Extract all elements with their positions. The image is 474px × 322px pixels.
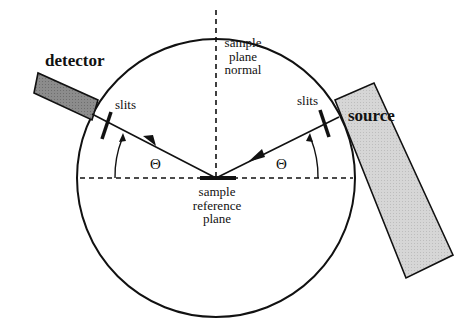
source-label: source [348,107,395,125]
sample-plane-normal-label: sample plane normal [220,36,266,77]
detector-box [34,73,98,120]
diffraction-diagram: detector source slits slits sample plane… [0,0,474,322]
incident-arrowhead-icon [248,149,265,162]
theta-arc-right-arrowhead-icon [306,133,313,142]
theta-left-label: Θ [150,157,161,173]
theta-arc-right [311,139,318,178]
slits-left-label: slits [115,98,136,112]
sample-reference-plane-label: sample reference plane [188,185,246,226]
detector-label: detector [45,52,104,70]
theta-arc-left-arrowhead-icon [119,133,126,142]
slits-right-label: slits [297,94,318,108]
slit-left [102,112,111,139]
theta-arc-left [115,139,122,178]
theta-right-label: Θ [276,157,287,173]
